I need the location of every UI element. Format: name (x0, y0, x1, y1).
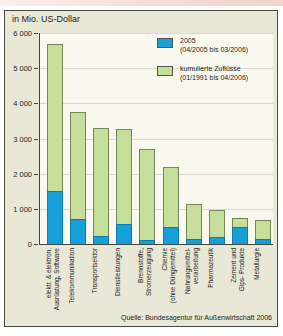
gridline-4000 (40, 103, 273, 104)
x-axis-label-line: Transportsektor (91, 248, 99, 312)
x-axis-label-9: Metallurgie (253, 248, 271, 312)
y-tick-label-0: 0 (5, 240, 32, 249)
legend-item-0: 2005(04/2005 bis 03/2006) (157, 37, 248, 54)
bar-cumulative-6 (186, 204, 202, 244)
y-tick-mark-3000 (34, 139, 38, 140)
chart-title: in Mio. US-Dollar (12, 14, 80, 24)
legend-label-1: kumulierte Zuflüsse(01/1991 bis 04/2006) (180, 65, 248, 82)
y-tick-mark-2000 (34, 174, 38, 175)
bar-2005-9 (255, 239, 271, 244)
legend-label-0: 2005(04/2005 bis 03/2006) (180, 37, 248, 54)
x-axis-label-2: Transportsektor (91, 248, 109, 312)
gridline-6000 (40, 33, 273, 34)
bar-2005-1 (70, 219, 86, 244)
bar-cumulative-2 (93, 128, 109, 244)
legend-label-line: (04/2005 bis 03/2006) (180, 46, 248, 55)
x-axis-label-line: Chemie (161, 248, 169, 312)
legend-label-line: kumulierte Zuflüsse (180, 65, 248, 74)
x-axis-label-3: Dienstleistungen (114, 248, 132, 312)
y-tick-mark-6000 (34, 33, 38, 34)
x-axis-label-4: Brennstoffe,Stromerzeugung (137, 248, 155, 312)
x-axis-label-line: Telekommunikation (68, 248, 76, 312)
x-axis-label-1: Telekommunikation (68, 248, 86, 312)
y-tick-mark-1000 (34, 209, 38, 210)
legend-item-1: kumulierte Zuflüsse(01/1991 bis 04/2006) (157, 65, 248, 82)
source-note: Quelle: Bundesagentur für Außenwirtschaf… (121, 314, 272, 321)
legend: 2005(04/2005 bis 03/2006)kumulierte Zufl… (157, 37, 248, 93)
y-tick-mark-4000 (34, 103, 38, 104)
x-axis-label-line: Nahrungsmittel- (184, 248, 192, 312)
x-axis-label-line: Zement und (230, 248, 238, 312)
bar-2005-6 (186, 239, 202, 244)
x-axis-label-7: Pharmazeutik (207, 248, 225, 312)
y-tick-label-6000: 6 000 (5, 29, 32, 38)
x-axis-label-0: elektr. & elektron.Ausrüstung, Software (45, 248, 63, 312)
x-axis-label-line: verarbeitung (192, 248, 200, 312)
bar-2005-5 (163, 227, 179, 244)
y-tick-mark-5000 (34, 68, 38, 69)
legend-swatch-1 (157, 66, 173, 76)
x-axis-label-line: (ohne Düngemittel) (169, 248, 177, 312)
x-axis-label-8: Zement undGips- Produkte (230, 248, 248, 312)
x-axis-label-line: Stromerzeugung (145, 248, 153, 312)
bar-cumulative-4 (139, 149, 155, 244)
x-axis-label-line: Dienstleistungen (114, 248, 122, 312)
bar-2005-2 (93, 236, 109, 244)
legend-swatch-0 (157, 38, 173, 48)
page-top-accent (0, 0, 283, 6)
x-axis-label-line: Metallurgie (253, 248, 261, 312)
y-tick-label-5000: 5 000 (5, 64, 32, 73)
x-axis-label-5: Chemie(ohne Düngemittel) (161, 248, 179, 312)
y-tick-label-4000: 4 000 (5, 99, 32, 108)
y-tick-mark-0 (34, 244, 38, 245)
legend-label-line: (01/1991 bis 04/2006) (180, 74, 248, 83)
bar-2005-3 (116, 224, 132, 244)
x-axis-label-line: Pharmazeutik (207, 248, 215, 312)
bar-2005-8 (232, 227, 248, 244)
y-tick-label-1000: 1 000 (5, 205, 32, 214)
chart-frame: in Mio. US-Dollar 2005(04/2005 bis 03/20… (4, 10, 278, 327)
x-axis-label-6: Nahrungsmittel-verarbeitung (184, 248, 202, 312)
x-axis-label-line: Ausrüstung, Software (53, 248, 61, 312)
bar-2005-4 (139, 240, 155, 244)
x-axis-label-line: Gips- Produkte (238, 248, 246, 312)
y-tick-label-3000: 3 000 (5, 135, 32, 144)
x-axis-label-line: elektr. & elektron. (45, 248, 53, 312)
legend-label-line: 2005 (180, 37, 248, 46)
y-tick-label-2000: 2 000 (5, 170, 32, 179)
bar-2005-0 (47, 191, 63, 244)
bar-2005-7 (209, 237, 225, 244)
